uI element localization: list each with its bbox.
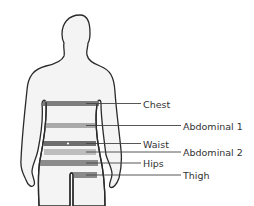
thigh-label: Thigh — [182, 170, 210, 181]
body-measurement-diagram: Chest Abdominal 1 Waist Abdominal 2 Hips… — [0, 0, 254, 206]
navel-marker-icon — [67, 142, 69, 144]
waist-label: Waist — [143, 139, 169, 150]
chest-label: Chest — [143, 99, 170, 110]
body-outline — [21, 15, 122, 206]
abdominal-1-label: Abdominal 1 — [183, 121, 243, 132]
body-silhouette — [21, 15, 122, 206]
abdominal-2-label: Abdominal 2 — [183, 147, 243, 158]
inner-leg-outline — [70, 173, 73, 206]
hips-label: Hips — [143, 158, 164, 169]
